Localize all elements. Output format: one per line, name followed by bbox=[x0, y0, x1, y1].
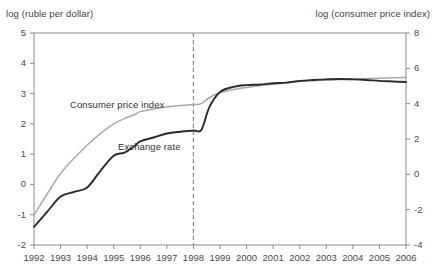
y-tick-label: 5 bbox=[0, 27, 26, 38]
y2-tick-label: 2 bbox=[414, 133, 419, 144]
y2-tick-label: -4 bbox=[414, 239, 422, 250]
y2-tick-label: 0 bbox=[414, 168, 419, 179]
y-tick-label: 3 bbox=[0, 88, 26, 99]
series-label-exchange-rate: Exchange rate bbox=[118, 141, 181, 152]
series-label-consumer-price-index: Consumer price index bbox=[70, 99, 164, 110]
y-tick-label: -2 bbox=[0, 239, 26, 250]
y2-tick-label: -2 bbox=[414, 204, 422, 215]
y-tick-label: 2 bbox=[0, 118, 26, 129]
y-tick-label: 4 bbox=[0, 57, 26, 68]
y2-tick-label: 4 bbox=[414, 98, 419, 109]
y-tick-label: 0 bbox=[0, 178, 26, 189]
y-tick-label: -1 bbox=[0, 209, 26, 220]
plot-area bbox=[0, 0, 436, 273]
x-tick-label: 2006 bbox=[390, 252, 422, 263]
chart-container: log (ruble per dollar) log (consumer pri… bbox=[0, 0, 436, 273]
y2-tick-label: 6 bbox=[414, 62, 419, 73]
y2-tick-label: 8 bbox=[414, 27, 419, 38]
y-tick-label: 1 bbox=[0, 148, 26, 159]
